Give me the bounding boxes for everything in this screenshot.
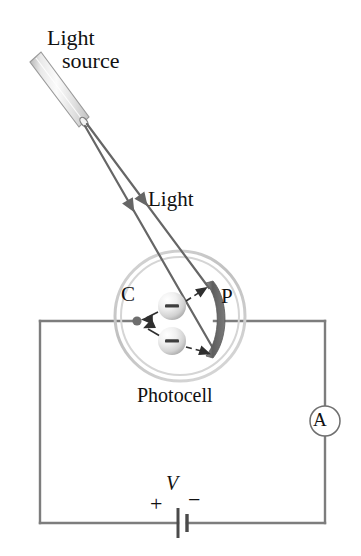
- photocell-label: Photocell: [137, 385, 213, 406]
- voltage-label: V: [166, 473, 178, 494]
- plate-arrow-upper-head: [196, 285, 208, 296]
- electron-sphere-2-minus-sign: [165, 339, 179, 342]
- electron-arrow-lower: [148, 329, 160, 336]
- electron-sphere-1-minus-sign: [165, 304, 179, 307]
- light-source-label-line1: Light: [47, 25, 95, 50]
- battery-symbol: [178, 508, 187, 538]
- circuit-loop: [40, 321, 325, 523]
- light-ray-label: Light: [148, 188, 194, 210]
- light-source-label-line2: source: [47, 49, 119, 72]
- light-source-label: Light source: [47, 26, 119, 73]
- plate-label: P: [221, 285, 233, 307]
- light-ray-1-arrowhead: [124, 199, 137, 212]
- cathode-label: C: [121, 283, 135, 305]
- photocell-diagram: [0, 0, 361, 556]
- electron-spheres: [158, 292, 186, 355]
- cathode-electrode: [132, 316, 141, 325]
- positive-terminal-label: +: [150, 492, 162, 515]
- negative-terminal-label: −: [188, 488, 200, 511]
- ammeter-label: A: [313, 410, 327, 430]
